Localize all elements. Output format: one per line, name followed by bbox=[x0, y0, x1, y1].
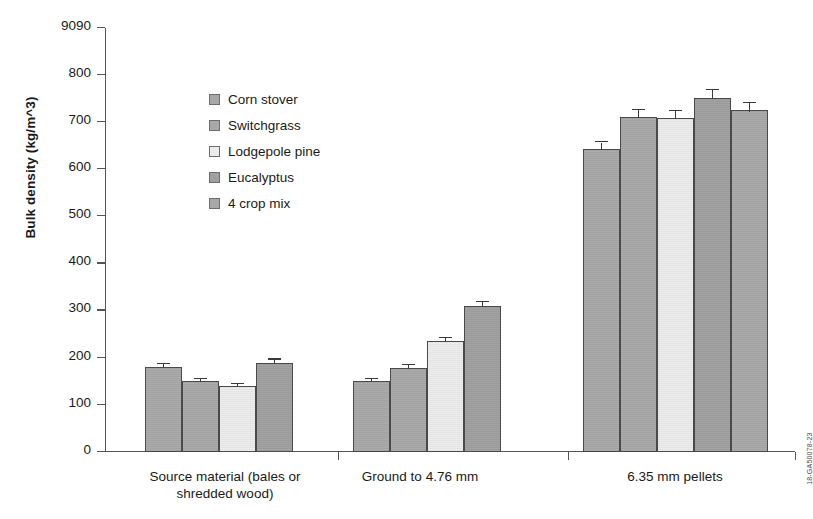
bar bbox=[583, 149, 620, 452]
x-axis-group-label: Ground to 4.76 mm bbox=[290, 468, 550, 485]
error-bar-cap bbox=[669, 110, 682, 111]
error-bar bbox=[408, 365, 409, 368]
error-bar bbox=[274, 360, 275, 363]
error-bar bbox=[749, 103, 750, 111]
y-axis-tick-label: 300 bbox=[68, 300, 91, 315]
y-axis-tick: 200 bbox=[97, 357, 105, 358]
legend-item: Corn stover bbox=[209, 86, 320, 112]
y-axis-tick-label: 800 bbox=[68, 65, 91, 80]
legend-item: Lodgepole pine bbox=[209, 138, 320, 164]
bar bbox=[390, 368, 427, 452]
bar bbox=[657, 118, 694, 452]
bar bbox=[464, 306, 501, 452]
legend-item: Switchgrass bbox=[209, 112, 320, 138]
bar bbox=[620, 117, 657, 452]
x-axis-tick bbox=[338, 452, 339, 460]
legend-item: 4 crop mix bbox=[209, 190, 320, 216]
legend-swatch-icon bbox=[209, 120, 220, 131]
legend-label: Lodgepole pine bbox=[228, 144, 320, 159]
y-axis-tick: 0 bbox=[97, 451, 105, 452]
x-axis-group-label-line: shredded wood) bbox=[95, 485, 355, 502]
error-bar-cap bbox=[365, 378, 378, 379]
error-bar-cap bbox=[402, 364, 415, 365]
bar bbox=[145, 367, 182, 452]
error-bar-cap bbox=[194, 378, 207, 379]
error-bar bbox=[482, 302, 483, 306]
legend-label: 4 crop mix bbox=[228, 196, 290, 211]
error-bar bbox=[163, 364, 164, 367]
legend-swatch-icon bbox=[209, 146, 220, 157]
y-axis-tick-label: 700 bbox=[68, 112, 91, 127]
y-axis-tick-label: 400 bbox=[68, 253, 91, 268]
x-axis-group-label-line: Ground to 4.76 mm bbox=[290, 468, 550, 485]
legend-label: Corn stover bbox=[228, 92, 298, 107]
y-axis-tick-label: 500 bbox=[68, 206, 91, 221]
x-axis-tick bbox=[795, 452, 796, 460]
error-bar bbox=[371, 379, 372, 382]
chart-legend: Corn stoverSwitchgrassLodgepole pineEuca… bbox=[209, 86, 320, 216]
error-bar-cap bbox=[743, 102, 756, 103]
error-bar-cap bbox=[595, 141, 608, 142]
y-axis-tick: 800 bbox=[97, 74, 105, 75]
error-bar bbox=[601, 143, 602, 151]
error-bar-cap bbox=[439, 337, 452, 338]
x-axis-group-label: 6.35 mm pellets bbox=[545, 468, 805, 485]
error-bar-cap bbox=[157, 363, 170, 364]
legend-label: Switchgrass bbox=[228, 118, 301, 133]
y-axis-tick-label: 9090 bbox=[61, 18, 91, 33]
legend-label: Eucalyptus bbox=[228, 170, 294, 185]
y-axis-tick-label: 100 bbox=[68, 395, 91, 410]
y-axis-tick: 500 bbox=[97, 215, 105, 216]
legend-swatch-icon bbox=[209, 172, 220, 183]
bar bbox=[353, 381, 390, 452]
y-axis-tick: 100 bbox=[97, 404, 105, 405]
bar bbox=[219, 386, 256, 452]
bar bbox=[256, 363, 293, 453]
y-axis-tick-label: 600 bbox=[68, 159, 91, 174]
y-axis-tick: 600 bbox=[97, 168, 105, 169]
error-bar bbox=[200, 379, 201, 382]
error-bar bbox=[675, 111, 676, 119]
figure-id-stamp: 18-GA50078-23 bbox=[806, 432, 813, 484]
y-axis-tick: 700 bbox=[97, 121, 105, 122]
error-bar-cap bbox=[231, 383, 244, 384]
legend-item: Eucalyptus bbox=[209, 164, 320, 190]
error-bar bbox=[638, 110, 639, 118]
y-axis-title: Bulk density (kg/m^3) bbox=[23, 58, 38, 278]
error-bar bbox=[445, 338, 446, 342]
bar bbox=[427, 341, 464, 452]
y-axis-tick: 300 bbox=[97, 309, 105, 310]
y-axis-line bbox=[105, 28, 106, 452]
bar bbox=[731, 110, 768, 452]
y-axis-tick-label: 0 bbox=[83, 442, 91, 457]
legend-swatch-icon bbox=[209, 94, 220, 105]
y-axis-tick: 400 bbox=[97, 262, 105, 263]
bar bbox=[182, 381, 219, 452]
error-bar bbox=[237, 384, 238, 386]
x-axis-tick bbox=[568, 452, 569, 460]
y-axis-tick: 9090 bbox=[97, 27, 105, 28]
x-axis-group-label-line: 6.35 mm pellets bbox=[545, 468, 805, 485]
error-bar-cap bbox=[268, 358, 281, 359]
error-bar-cap bbox=[476, 301, 489, 302]
bar bbox=[694, 98, 731, 452]
error-bar-cap bbox=[632, 109, 645, 110]
error-bar-cap bbox=[706, 89, 719, 90]
error-bar bbox=[712, 90, 713, 99]
legend-swatch-icon bbox=[209, 198, 220, 209]
y-axis-tick-label: 200 bbox=[68, 348, 91, 363]
